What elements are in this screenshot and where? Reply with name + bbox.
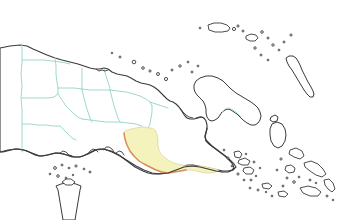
islet-north-coast-5 bbox=[187, 61, 189, 63]
solomons-islet-6 bbox=[315, 182, 317, 184]
islet-bagabag bbox=[149, 70, 151, 72]
solomons-islet-1 bbox=[280, 158, 282, 160]
milne-islet-4 bbox=[243, 179, 245, 181]
islet-north-coast-2 bbox=[111, 52, 113, 54]
map-container: New Guinea and Island Melanesia region m… bbox=[0, 0, 342, 220]
islet-umboi bbox=[164, 77, 167, 80]
islet-manam bbox=[142, 67, 145, 70]
torres-islet-8 bbox=[72, 174, 74, 176]
solomons-islet-2 bbox=[286, 177, 288, 179]
milne-islet-9 bbox=[265, 191, 267, 193]
region-map bbox=[0, 0, 342, 220]
milne-islet-10 bbox=[271, 195, 273, 197]
islet-north-8 bbox=[260, 54, 262, 56]
milne-islet-13 bbox=[223, 149, 225, 151]
islet-karkar bbox=[132, 60, 136, 64]
bougainville-outline bbox=[270, 122, 286, 148]
torres-islet-5 bbox=[83, 168, 85, 170]
torres-islet-9 bbox=[49, 173, 51, 175]
milne-islet-5 bbox=[250, 179, 252, 181]
solomons-islet-5 bbox=[309, 179, 311, 181]
milne-islet-8 bbox=[249, 187, 251, 189]
milne-islet-14 bbox=[245, 153, 247, 155]
solomons-islet-4 bbox=[298, 176, 300, 178]
milne-islet-3 bbox=[237, 173, 239, 175]
milne-islet-7 bbox=[257, 189, 259, 191]
admiralty-islet-1 bbox=[232, 27, 235, 30]
torres-islet-2 bbox=[61, 164, 63, 166]
islet-north-5 bbox=[283, 41, 285, 43]
solomons-islet-3 bbox=[293, 181, 296, 184]
admiralty-islet-2 bbox=[237, 25, 239, 27]
islet-north-coast-4 bbox=[179, 65, 181, 67]
islet-long bbox=[157, 73, 160, 76]
islet-north-coast-1 bbox=[119, 56, 121, 58]
islet-north-9 bbox=[267, 59, 269, 61]
islet-north-3 bbox=[272, 44, 274, 46]
islet-north-coast-6 bbox=[191, 71, 193, 73]
solomons-islet-10 bbox=[332, 199, 334, 201]
torres-islet-4 bbox=[75, 165, 77, 167]
solomons-islet-9 bbox=[326, 195, 328, 197]
islet-north-6 bbox=[290, 34, 292, 36]
torres-islet-10 bbox=[89, 171, 91, 173]
islet-north-coast-3 bbox=[171, 69, 173, 71]
torres-islet-6 bbox=[57, 175, 60, 178]
solomons-islet-8 bbox=[282, 185, 284, 187]
islet-north-7 bbox=[254, 47, 256, 49]
milne-islet-2 bbox=[231, 165, 233, 167]
torres-islet-1 bbox=[54, 167, 57, 170]
islet-north-coast-7 bbox=[197, 65, 199, 67]
islet-north-1 bbox=[261, 31, 264, 34]
solomons-islet-7 bbox=[276, 169, 278, 171]
islet-north-2 bbox=[267, 37, 269, 39]
new-hanover bbox=[246, 34, 258, 41]
milne-islet-1 bbox=[227, 157, 229, 159]
admiralty-islet-4 bbox=[199, 27, 201, 29]
milne-islet-6 bbox=[255, 175, 257, 177]
milne-islet-12 bbox=[259, 167, 261, 169]
milne-islet-11 bbox=[253, 161, 255, 163]
admiralty-islet-3 bbox=[242, 30, 244, 32]
torres-islet-3 bbox=[68, 167, 70, 169]
islet-north-4 bbox=[278, 49, 280, 51]
